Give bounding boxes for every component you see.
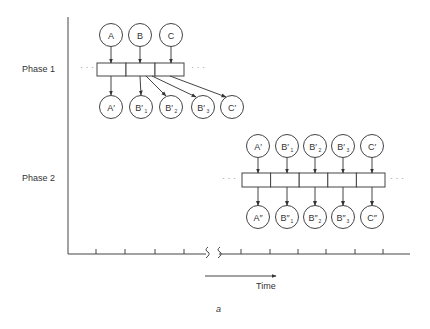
svg-text:B″: B″ <box>280 213 290 223</box>
time-label: Time <box>256 281 276 291</box>
time-axis <box>68 17 410 258</box>
phase1-output-a1: A′ <box>100 96 123 119</box>
svg-text:B′: B′ <box>281 142 289 152</box>
phase2-group: A′B′1B′2B′3C′A″B″1B″2B″3C″ <box>242 135 385 229</box>
svg-text:A′: A′ <box>254 142 262 152</box>
phase1-group: ABCA′B′1B′2B′3C′ <box>97 24 244 119</box>
svg-text:B′: B′ <box>165 103 173 113</box>
phase-diagram: ABCA′B′1B′2B′3C′ A′B′1B′2B′3C′A″B″1B″2B″… <box>0 0 430 329</box>
phase1-ellipsis-right: · · · <box>191 62 205 72</box>
svg-text:B′: B′ <box>337 142 345 152</box>
svg-text:C′: C′ <box>228 103 236 113</box>
svg-text:C″: C″ <box>367 213 377 223</box>
phase2-ellipsis-right: · · · <box>390 173 404 183</box>
phase1-buffer <box>97 63 184 76</box>
phase2-input-b1: B′1 <box>276 135 299 158</box>
phase2-input-c1: C′ <box>361 135 384 158</box>
figure-caption: a <box>216 304 221 314</box>
phase1-input-c: C <box>160 24 183 47</box>
svg-text:2: 2 <box>319 147 322 153</box>
phase2-input-b2: B′2 <box>304 135 327 158</box>
phase2-label: Phase 2 <box>22 173 55 183</box>
svg-text:2: 2 <box>319 218 322 224</box>
svg-text:C′: C′ <box>368 142 376 152</box>
svg-text:B″: B″ <box>308 213 318 223</box>
svg-text:3: 3 <box>207 108 210 114</box>
svg-text:1: 1 <box>145 108 148 114</box>
svg-text:3: 3 <box>347 147 350 153</box>
phase2-output-b12: B″1 <box>276 206 299 229</box>
phase2-buffer <box>242 173 385 187</box>
svg-text:C: C <box>168 31 175 41</box>
phase2-output-b32: B″3 <box>332 206 355 229</box>
phase2-output-b22: B″2 <box>304 206 327 229</box>
svg-text:B″: B″ <box>336 213 346 223</box>
phase1-output-b2: B′2 <box>160 96 183 119</box>
svg-text:1: 1 <box>291 218 294 224</box>
phase2-output-c2: C″ <box>361 206 384 229</box>
phase1-output-c1: C′ <box>221 96 244 119</box>
phase1-input-a: A <box>100 24 123 47</box>
svg-text:2: 2 <box>175 108 178 114</box>
svg-text:3: 3 <box>347 218 350 224</box>
svg-text:B′: B′ <box>197 103 205 113</box>
phase1-output-b3: B′3 <box>192 96 215 119</box>
phase2-input-a1: A′ <box>247 135 270 158</box>
svg-text:A′: A′ <box>107 103 115 113</box>
svg-text:B′: B′ <box>135 103 143 113</box>
phase1-output-b1: B′1 <box>130 96 153 119</box>
phase2-input-b3: B′3 <box>332 135 355 158</box>
svg-text:A: A <box>108 31 114 41</box>
svg-text:A″: A″ <box>253 213 263 223</box>
phase1-ellipsis-left: · · · <box>80 62 94 72</box>
svg-text:1: 1 <box>291 147 294 153</box>
svg-text:B: B <box>137 31 143 41</box>
phase1-input-b: B <box>129 24 152 47</box>
phase2-output-a2: A″ <box>247 206 270 229</box>
phase2-ellipsis-left: · · · <box>222 173 236 183</box>
svg-text:B′: B′ <box>309 142 317 152</box>
phase1-label: Phase 1 <box>22 64 55 74</box>
